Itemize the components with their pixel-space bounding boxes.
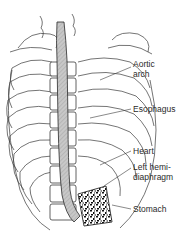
label-esophagus-text: Esophagus [133, 104, 176, 114]
label-stomach-text: Stomach [133, 204, 167, 214]
label-left-hemidiaphragm-line1: Left hemi- [133, 162, 173, 172]
label-aortic-arch: Aortic arch [133, 59, 155, 79]
label-heart: Heart [133, 146, 154, 156]
anatomy-figure: Aortic arch Esophagus Heart Left hemi- d… [0, 0, 186, 250]
label-aortic-arch-line1: Aortic [133, 59, 155, 69]
label-left-hemidiaphragm: Left hemi- diaphragm [133, 162, 173, 182]
label-heart-text: Heart [133, 146, 154, 156]
label-left-hemidiaphragm-line2: diaphragm [133, 172, 173, 182]
label-aortic-arch-line2: arch [133, 69, 155, 79]
leader-lines [90, 67, 131, 209]
label-esophagus: Esophagus [133, 104, 176, 114]
stomach-shape [78, 186, 112, 226]
label-stomach: Stomach [133, 204, 167, 214]
